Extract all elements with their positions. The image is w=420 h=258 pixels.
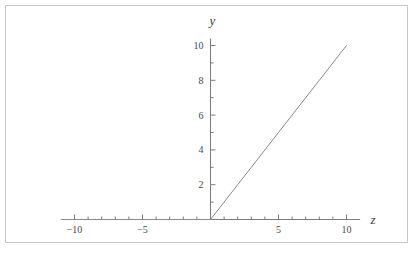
- y-axis-label: y: [208, 13, 216, 28]
- series-line-relu: [61, 46, 347, 220]
- y-tick-label: 2: [199, 179, 204, 190]
- x-tick-label: 5: [276, 224, 281, 235]
- x-tick-label: 10: [342, 224, 352, 235]
- x-tick-label: −5: [137, 224, 148, 235]
- relu-plot: −10−5510246810zy: [0, 0, 420, 258]
- y-tick-label: 6: [199, 110, 204, 121]
- x-tick-label: −10: [67, 224, 83, 235]
- y-tick-label: 8: [199, 75, 204, 86]
- y-tick-label: 10: [194, 40, 204, 51]
- y-tick-label: 4: [199, 144, 204, 155]
- chart-page: −10−5510246810zy: [0, 0, 420, 258]
- x-axis-label: z: [370, 212, 376, 227]
